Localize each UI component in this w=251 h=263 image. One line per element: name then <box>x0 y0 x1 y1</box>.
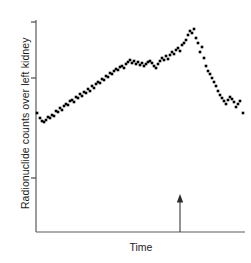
data-point <box>219 94 222 97</box>
data-point <box>187 34 190 37</box>
data-point <box>217 90 220 93</box>
data-point <box>57 111 60 114</box>
data-point <box>107 76 110 79</box>
data-point <box>77 97 80 100</box>
data-point <box>49 117 52 120</box>
data-point <box>242 112 245 115</box>
data-point <box>157 63 160 66</box>
data-point <box>155 67 158 70</box>
data-point <box>53 115 56 118</box>
data-point <box>123 67 126 70</box>
data-point <box>73 101 76 104</box>
data-point <box>199 51 202 54</box>
data-point <box>203 57 206 60</box>
data-point <box>39 117 42 120</box>
data-point <box>231 98 234 101</box>
arrow-head <box>177 194 183 203</box>
data-point <box>213 81 216 84</box>
data-point <box>237 103 240 106</box>
data-point <box>191 32 194 35</box>
data-point <box>169 54 172 57</box>
data-point <box>209 73 212 76</box>
injection-marker-arrow <box>177 194 183 232</box>
data-point <box>195 37 198 40</box>
data-point <box>61 109 64 112</box>
y-axis-ticks <box>31 22 36 178</box>
data-point <box>163 59 166 62</box>
renogram-figure: Radionuclide counts over left kidney Tim… <box>0 0 251 263</box>
data-point <box>207 70 210 73</box>
data-point <box>99 82 102 85</box>
data-point <box>45 119 48 122</box>
data-point <box>177 47 180 50</box>
data-point <box>111 73 114 76</box>
data-point <box>165 55 168 58</box>
data-point <box>223 100 226 103</box>
data-point <box>225 103 228 106</box>
data-point <box>227 99 230 102</box>
data-point <box>117 69 120 72</box>
axes <box>31 20 245 232</box>
data-point <box>233 101 236 104</box>
data-point <box>36 112 39 115</box>
data-point <box>151 62 154 65</box>
data-point <box>81 95 84 98</box>
scatter-plot-canvas <box>0 0 251 263</box>
data-point <box>89 90 92 93</box>
data-point <box>173 53 176 56</box>
data-point <box>179 50 182 53</box>
data-point <box>67 104 70 107</box>
data-point <box>85 92 88 95</box>
data-point <box>201 46 204 49</box>
data-point <box>211 77 214 80</box>
data-point <box>185 39 188 42</box>
data-point <box>103 79 106 82</box>
data-point <box>167 58 170 61</box>
data-point <box>205 65 208 68</box>
data-point <box>133 60 136 63</box>
data-point <box>235 106 238 109</box>
annotation-group <box>177 194 183 232</box>
data-point <box>137 61 140 64</box>
data-point <box>215 85 218 88</box>
data-point <box>197 42 200 45</box>
data-point <box>141 62 144 65</box>
data-point <box>221 97 224 100</box>
data-point <box>239 100 242 103</box>
data-point <box>193 28 196 31</box>
data-point <box>129 59 132 62</box>
data-point-group <box>36 28 245 124</box>
data-point <box>159 60 162 63</box>
data-point <box>93 87 96 90</box>
data-point <box>183 42 186 45</box>
